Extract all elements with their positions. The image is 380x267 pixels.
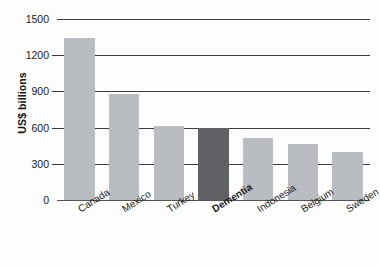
x-axis-tick-labels: CanadaMexicoTurkeyDementiaIndonesiaBelgi… [57, 201, 370, 267]
y-axis-tick-label: 1200 [26, 49, 49, 61]
bar-sweden [332, 152, 362, 200]
y-axis-tick-label: 900 [31, 85, 49, 97]
bar-canada [64, 38, 94, 200]
bars-layer [57, 19, 370, 200]
y-axis-title: US$ billions [12, 0, 32, 205]
plot-area: 030060090012001500 [57, 19, 370, 200]
bar-turkey [154, 126, 184, 200]
bar-dementia [198, 128, 228, 200]
y-axis-title-text: US$ billions [16, 72, 28, 133]
y-axis-tick-label: 0 [43, 194, 49, 206]
y-axis-tick-label: 600 [31, 122, 49, 134]
y-axis-tick-label: 1500 [26, 13, 49, 25]
y-axis-tick-label: 300 [31, 158, 49, 170]
bar-mexico [109, 94, 139, 200]
